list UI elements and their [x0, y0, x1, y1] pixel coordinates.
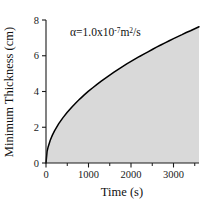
- x-tick-label: 1000: [78, 169, 99, 180]
- y-tick-label: 8: [34, 15, 39, 26]
- x-tick-label: 3000: [163, 169, 184, 180]
- minimum-thickness-vs-time-chart: 02468 0100020003000 Time (s) Minimum Thi…: [0, 0, 206, 207]
- x-axis-title: Time (s): [101, 185, 143, 199]
- x-tick-label: 2000: [121, 169, 142, 180]
- y-axis-title: Minimum Thickness (cm): [2, 27, 16, 157]
- chart-figure: 02468 0100020003000 Time (s) Minimum Thi…: [0, 0, 206, 207]
- x-tick-label: 0: [43, 169, 48, 180]
- y-tick-label: 4: [34, 86, 40, 97]
- y-tick-label: 0: [34, 158, 39, 169]
- y-tick-label: 2: [34, 122, 39, 133]
- y-tick-label: 6: [34, 50, 39, 61]
